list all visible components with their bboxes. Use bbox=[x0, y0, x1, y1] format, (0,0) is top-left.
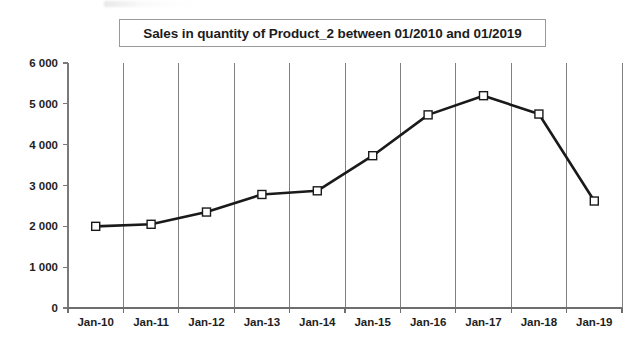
y-axis-labels: 01 0002 0003 0004 0005 0006 000 bbox=[0, 0, 58, 356]
gridlines bbox=[68, 63, 622, 308]
data-point-marker bbox=[147, 220, 155, 228]
data-point-marker bbox=[424, 111, 432, 119]
x-axis-tick-label: Jan-15 bbox=[354, 316, 390, 328]
x-axis-tick-label: Jan-19 bbox=[576, 316, 612, 328]
data-point-marker bbox=[313, 187, 321, 195]
sales-line-chart: Sales in quantity of Product_2 between 0… bbox=[0, 0, 642, 356]
y-axis-tick-label: 2 000 bbox=[29, 220, 58, 232]
data-point-marker bbox=[369, 152, 377, 160]
x-axis-tick-label: Jan-16 bbox=[410, 316, 446, 328]
x-tick-marks bbox=[68, 308, 622, 313]
x-axis-labels: Jan-10Jan-11Jan-12Jan-13Jan-14Jan-15Jan-… bbox=[0, 316, 642, 340]
x-axis-tick-label: Jan-10 bbox=[77, 316, 113, 328]
x-axis-tick-label: Jan-18 bbox=[521, 316, 557, 328]
data-point-marker bbox=[92, 222, 100, 230]
y-axis-tick-label: 5 000 bbox=[29, 98, 58, 110]
data-point-marker bbox=[590, 197, 598, 205]
data-point-marker bbox=[203, 208, 211, 216]
x-axis-tick-label: Jan-11 bbox=[133, 316, 169, 328]
data-point-marker bbox=[480, 92, 488, 100]
x-axis-tick-label: Jan-12 bbox=[188, 316, 224, 328]
y-axis-tick-label: 1 000 bbox=[29, 261, 58, 273]
x-axis-tick-label: Jan-13 bbox=[244, 316, 280, 328]
y-axis-tick-label: 4 000 bbox=[29, 139, 58, 151]
data-point-marker bbox=[535, 110, 543, 118]
plot-area: 01 0002 0003 0004 0005 0006 000 Jan-10Ja… bbox=[0, 0, 642, 356]
plot-svg bbox=[0, 0, 642, 356]
x-axis-tick-label: Jan-17 bbox=[465, 316, 501, 328]
y-axis-tick-label: 0 bbox=[52, 302, 58, 314]
y-axis-tick-label: 6 000 bbox=[29, 57, 58, 69]
data-point-marker bbox=[258, 190, 266, 198]
y-axis-tick-label: 3 000 bbox=[29, 180, 58, 192]
x-axis-tick-label: Jan-14 bbox=[299, 316, 335, 328]
y-tick-marks bbox=[63, 63, 68, 308]
